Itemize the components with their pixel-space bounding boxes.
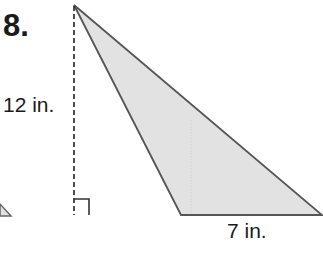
height-label: 12 in. bbox=[3, 92, 54, 118]
adjacent-figure-fragment bbox=[0, 204, 11, 216]
triangle-diagram bbox=[0, 0, 323, 272]
right-angle-marker bbox=[74, 199, 89, 215]
geometry-figure bbox=[0, 0, 323, 272]
base-label: 7 in. bbox=[227, 218, 267, 244]
problem-number: 8. bbox=[3, 8, 29, 44]
shaded-triangle bbox=[74, 5, 322, 215]
